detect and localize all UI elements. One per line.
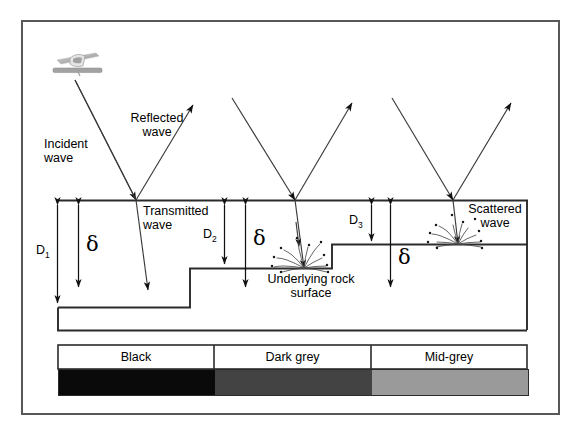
penetration-symbol-delta-2: δ (253, 228, 266, 249)
tone-swatch-dark-grey (215, 370, 372, 395)
reflected-wave-label: Reflectedwave (118, 112, 196, 139)
depth-label-d2-text: D (203, 227, 212, 241)
scattered-wave-label: Scatteredwave (464, 203, 526, 230)
tone-cell-label-dark-grey: Dark grey (214, 350, 371, 364)
incident-wave-ray-3 (392, 98, 453, 200)
figure-canvas: Incidentwave Reflectedwave Transmittedwa… (0, 0, 581, 436)
incident-wave-label: Incidentwave (44, 138, 114, 165)
tone-cell-label-black: Black (58, 350, 214, 364)
depth-label-d3-sub: 3 (358, 220, 363, 230)
incident-wave-ray-2 (232, 98, 295, 200)
underlying-rock-surface-label: Underlying rocksurface (256, 273, 366, 300)
depth-label-d1-text: D (36, 243, 45, 257)
depth-label-d2-sub: 2 (212, 234, 217, 244)
transmitted-wave-ray-3 (453, 200, 458, 244)
tone-swatch-mid-grey (372, 370, 528, 395)
depth-label-d3-text: D (349, 213, 358, 227)
depth-label-d3: D3 (349, 214, 363, 232)
transmitted-wave-ray-2 (295, 200, 304, 268)
penetration-symbol-delta-1: δ (86, 234, 99, 255)
tone-cell-label-mid-grey: Mid-grey (371, 350, 527, 364)
depth-label-d1-sub: 1 (45, 250, 50, 260)
penetration-symbol-delta-3: δ (398, 247, 411, 268)
reflected-wave-ray-2 (295, 103, 352, 200)
depth-label-d2: D2 (203, 228, 217, 246)
tone-swatch-black (59, 370, 215, 395)
wave-group-2 (232, 98, 352, 268)
depth-label-d1: D1 (36, 244, 50, 262)
section-base-outline (58, 308, 527, 331)
airborne-sensor-icon (44, 53, 104, 91)
tone-swatch-strip (58, 369, 529, 396)
reflected-wave-ray-3 (453, 103, 511, 200)
